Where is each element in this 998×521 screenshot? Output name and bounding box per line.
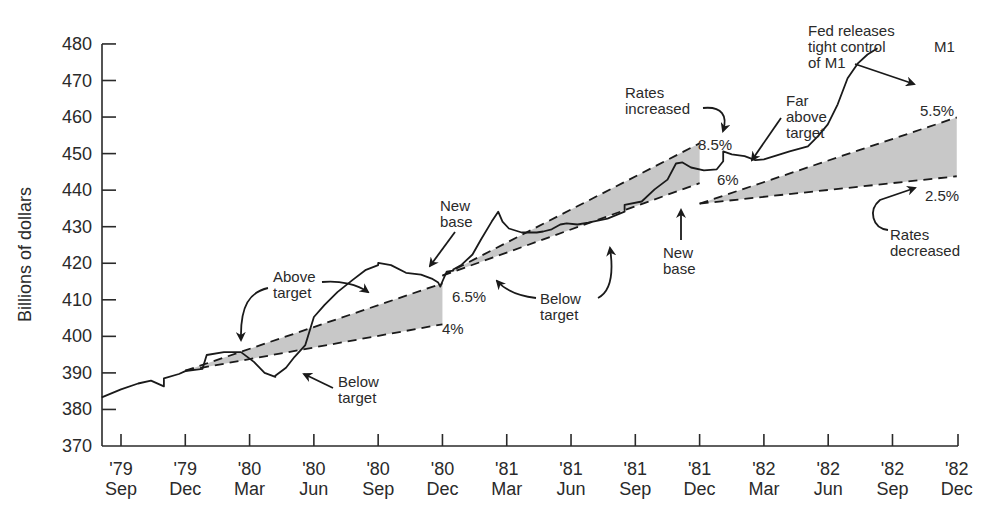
arrow-icon <box>241 288 268 340</box>
x-tick-year: '82 <box>752 459 775 479</box>
arrow-icon <box>703 108 725 131</box>
svg-text:decreased: decreased <box>890 242 960 259</box>
arrow-icon <box>855 64 914 84</box>
svg-text:New: New <box>440 197 470 214</box>
x-tick-year: '82 <box>881 459 904 479</box>
y-tick-label: 440 <box>62 180 92 200</box>
svg-text:Fed releases: Fed releases <box>808 22 895 39</box>
svg-text:New: New <box>663 244 693 261</box>
label-pct-5-5: 5.5% <box>920 102 954 119</box>
x-tick-month: Dec <box>426 479 458 499</box>
svg-text:target: target <box>786 124 825 141</box>
x-tick-year: '81 <box>624 459 647 479</box>
x-tick-month: Jun <box>557 479 586 499</box>
x-tick-month: Mar <box>748 479 779 499</box>
annotation-new-base-2: New base <box>663 210 696 277</box>
x-tick-year: '80 <box>366 459 389 479</box>
arrow-icon <box>304 374 333 388</box>
svg-text:of M1: of M1 <box>808 54 846 71</box>
svg-text:Below: Below <box>540 290 581 307</box>
annotation-far-above-target: Far above target <box>752 92 827 160</box>
x-tick-year: '80 <box>431 459 454 479</box>
x-tick-year: '81 <box>495 459 518 479</box>
y-ticks: 370380390400410420430440450460470480 <box>62 34 116 456</box>
y-tick-label: 410 <box>62 290 92 310</box>
arrow-icon <box>430 232 455 266</box>
svg-text:increased: increased <box>625 100 690 117</box>
arrow-icon <box>497 281 536 298</box>
y-tick-label: 380 <box>62 399 92 419</box>
y-tick-label: 370 <box>62 436 92 456</box>
svg-text:target: target <box>273 284 312 301</box>
x-ticks: '79Sep'79Dec'80Mar'80Jun'80Sep'80Dec'81M… <box>105 434 973 499</box>
annotation-new-base-1: New base <box>430 197 473 266</box>
y-axis-label: Billions of dollars <box>15 187 35 322</box>
svg-text:Rates: Rates <box>890 226 929 243</box>
x-tick-year: '80 <box>302 459 325 479</box>
label-pct-2-5: 2.5% <box>925 187 959 204</box>
x-tick-month: Sep <box>876 479 908 499</box>
arrow-icon <box>752 118 781 160</box>
svg-text:base: base <box>440 213 473 230</box>
y-tick-label: 450 <box>62 144 92 164</box>
y-axis: 370380390400410420430440450460470480 <box>62 34 116 456</box>
x-tick-month: Dec <box>941 479 973 499</box>
x-tick-month: Dec <box>684 479 716 499</box>
label-m1: M1 <box>934 38 955 55</box>
arrow-icon <box>598 248 612 298</box>
annotation-fed-releases: Fed releases tight control of M1 <box>808 22 914 84</box>
svg-text:above: above <box>786 108 827 125</box>
x-tick-month: Sep <box>619 479 651 499</box>
x-tick-month: Jun <box>299 479 328 499</box>
svg-text:target: target <box>338 389 377 406</box>
x-tick-month: Sep <box>362 479 394 499</box>
y-tick-label: 420 <box>62 253 92 273</box>
x-tick-year: '80 <box>238 459 261 479</box>
y-tick-label: 460 <box>62 107 92 127</box>
x-tick-month: Mar <box>234 479 265 499</box>
svg-text:tight control: tight control <box>808 38 886 55</box>
annotation-rates-increased: Rates increased <box>625 84 725 131</box>
x-tick-month: Mar <box>491 479 522 499</box>
y-tick-label: 400 <box>62 326 92 346</box>
x-axis: '79Sep'79Dec'80Mar'80Jun'80Sep'80Dec'81M… <box>102 434 973 499</box>
y-tick-label: 430 <box>62 217 92 237</box>
svg-text:target: target <box>540 306 579 323</box>
annotation-below-target-1: Below target <box>304 373 379 406</box>
svg-text:Above: Above <box>273 268 316 285</box>
y-tick-label: 480 <box>62 34 92 54</box>
target-cones <box>185 117 956 370</box>
svg-text:Below: Below <box>338 373 379 390</box>
y-tick-label: 390 <box>62 363 92 383</box>
x-tick-year: '82 <box>816 459 839 479</box>
svg-text:base: base <box>663 260 696 277</box>
x-tick-year: '79 <box>174 459 197 479</box>
x-tick-month: Sep <box>105 479 137 499</box>
label-pct-6: 6% <box>717 171 739 188</box>
label-pct-4: 4% <box>442 320 464 337</box>
m1-series-line <box>102 48 878 397</box>
arrow-icon <box>873 188 915 230</box>
x-tick-month: Dec <box>169 479 201 499</box>
x-tick-year: '82 <box>945 459 968 479</box>
x-tick-year: '79 <box>109 459 132 479</box>
label-pct-8-5: 8.5% <box>698 136 732 153</box>
x-tick-year: '81 <box>688 459 711 479</box>
svg-text:Far: Far <box>786 92 809 109</box>
svg-text:Rates: Rates <box>625 84 664 101</box>
y-tick-label: 470 <box>62 71 92 91</box>
m1-chart: Billions of dollars 37038039040041042043… <box>0 0 998 521</box>
label-pct-6-5: 6.5% <box>452 288 486 305</box>
annotation-below-target-2: Below target <box>497 248 612 323</box>
x-tick-year: '81 <box>559 459 582 479</box>
x-tick-month: Jun <box>814 479 843 499</box>
